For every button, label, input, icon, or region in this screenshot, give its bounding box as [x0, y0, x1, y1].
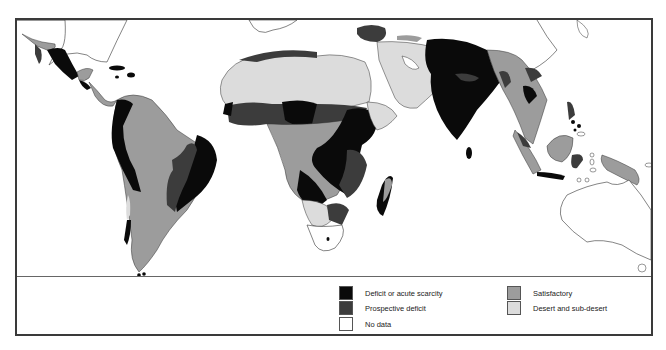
legend-item-prospective: Prospective deficit	[339, 301, 426, 315]
water-resources-map	[17, 20, 651, 276]
desert-swatch	[507, 301, 521, 315]
map-figure: Deficit or acute scarcity Prospective de…	[15, 18, 653, 336]
japan-outline	[577, 20, 588, 38]
europe-outline	[249, 20, 297, 32]
black-sea-area	[357, 25, 386, 42]
legend-label: Desert and sub-desert	[533, 304, 607, 313]
china-coast	[532, 20, 557, 70]
java	[537, 172, 565, 180]
borneo	[547, 135, 573, 162]
southern-africa-desert	[302, 200, 332, 227]
sulawesi	[571, 154, 583, 168]
legend-item-no-data: No data	[339, 317, 391, 331]
legend-item-deficit: Deficit or acute scarcity	[339, 286, 443, 300]
central-america-deficit	[79, 80, 91, 90]
iran-sat-strip	[397, 35, 422, 42]
prospective-swatch	[339, 301, 353, 315]
satisfactory-swatch	[507, 286, 521, 300]
legend-label: Deficit or acute scarcity	[365, 289, 443, 298]
deficit-swatch	[339, 286, 353, 300]
new-guinea	[601, 155, 639, 185]
central-america-sat2	[89, 82, 117, 106]
south-africa-nodata	[307, 225, 343, 251]
se-asia-satisfactory	[487, 50, 547, 144]
legend-label: No data	[365, 320, 391, 329]
legend: Deficit or acute scarcity Prospective de…	[17, 277, 651, 334]
philippines	[567, 102, 575, 120]
mexico-satisfactory	[22, 34, 55, 50]
sahel-deficit	[282, 100, 317, 125]
chile-deficit	[124, 220, 131, 245]
no-data-swatch	[339, 317, 353, 331]
legend-item-desert: Desert and sub-desert	[507, 301, 607, 315]
legend-label: Prospective deficit	[365, 304, 426, 313]
australia	[560, 180, 651, 260]
legend-label: Satisfactory	[533, 289, 572, 298]
legend-item-satisfactory: Satisfactory	[507, 286, 572, 300]
central-america-sat	[77, 68, 93, 80]
